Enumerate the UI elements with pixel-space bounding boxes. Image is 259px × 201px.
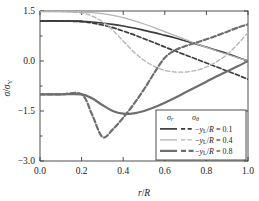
chart-figure: 0.00.20.40.60.81.0 1.50.0−1.5−3.0 r/R σ/… [0,0,259,201]
x-tick-label-3: 0.6 [159,166,171,176]
y-tick-label-3: −3.0 [18,156,35,166]
chart-legend: σrσθ−yL/R = 0.1−yL/R = 0.4−yL/R = 0.8 [156,110,246,160]
x-axis-title: r/R [138,188,150,198]
x-tick-label-2: 0.4 [117,166,129,176]
y-tick-label-0: 1.5 [23,6,35,16]
legend-label-0: −yL/R = 0.1 [195,125,232,135]
y-tick-label-1: 0.0 [23,56,35,66]
x-tick-label-5: 1.0 [242,166,254,176]
legend-label-2: −yL/R = 0.8 [195,147,232,157]
legend-label-1: −yL/R = 0.4 [195,136,232,146]
x-tick-label-0: 0.0 [34,166,46,176]
y-tick-label-2: −1.5 [18,106,35,116]
x-tick-label-1: 0.2 [76,166,88,176]
stress-distribution-chart: 0.00.20.40.60.81.0 1.50.0−1.5−3.0 r/R σ/… [0,0,259,201]
x-tick-label-4: 0.8 [200,166,212,176]
